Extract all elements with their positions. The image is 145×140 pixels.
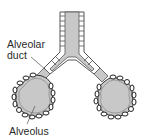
bronchiole bbox=[44, 12, 100, 74]
alveolar-duct-label: Alveolar duct bbox=[7, 39, 45, 61]
right-alveolus bbox=[94, 75, 136, 119]
left-alveolus bbox=[12, 73, 55, 119]
alveolus-label: Alveolus bbox=[9, 126, 49, 137]
alveoli-diagram bbox=[0, 0, 145, 140]
alveolar-duct-label-line2: duct bbox=[7, 50, 45, 61]
